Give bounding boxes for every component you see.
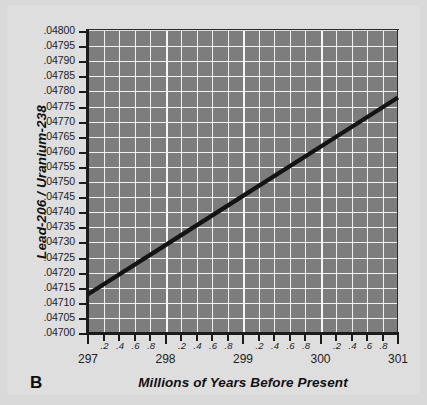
y-tick-mark [79, 167, 86, 169]
x-tick-label-minor: .4 [349, 340, 357, 351]
y-tick-mark [79, 242, 86, 244]
y-tick-mark [79, 91, 86, 93]
x-tick-label-major: 301 [388, 352, 408, 366]
y-tick-mark [79, 227, 86, 229]
x-tick-label-minor: .2 [178, 340, 186, 351]
x-tick-label-major: 300 [310, 352, 330, 366]
y-tick-mark [79, 318, 86, 320]
x-tick-label-minor: .6 [287, 340, 295, 351]
x-tick-label-minor: .4 [271, 340, 279, 351]
series-path [88, 97, 398, 294]
x-tick-mark-major [320, 335, 322, 344]
y-tick-mark [79, 258, 86, 260]
y-tick-mark [79, 273, 86, 275]
x-tick-mark-major [165, 335, 167, 344]
x-tick-mark-major [242, 335, 244, 344]
y-tick-mark [79, 152, 86, 154]
y-tick-mark [79, 137, 86, 139]
x-tick-label-minor: .4 [116, 340, 124, 351]
x-tick-label-major: 297 [78, 352, 98, 366]
x-tick-label-minor: .2 [256, 340, 264, 351]
x-tick-label-minor: .2 [333, 340, 341, 351]
x-tick-mark-major [397, 335, 399, 344]
x-axis-title: Millions of Years Before Present [88, 375, 398, 390]
x-tick-mark-major [87, 335, 89, 344]
x-tick-label-minor: .8 [302, 340, 310, 351]
x-tick-label-minor: .6 [364, 340, 372, 351]
y-tick-mark [79, 46, 86, 48]
y-axis-title: Lead-206 / Uranium-238 [28, 31, 54, 333]
y-tick-mark [79, 76, 86, 78]
y-tick-mark [79, 61, 86, 63]
y-tick-mark [79, 182, 86, 184]
x-tick-label-minor: .6 [132, 340, 140, 351]
x-tick-label-minor: .8 [380, 340, 388, 351]
panel-letter: B [30, 373, 42, 393]
data-series-line [88, 31, 398, 333]
chart-area: .04700.04705.04710.04715.04720.04725.047… [0, 0, 427, 405]
y-tick-mark [79, 31, 86, 33]
x-tick-label-minor: .6 [209, 340, 217, 351]
y-tick-mark [79, 107, 86, 109]
x-tick-label-major: 298 [155, 352, 175, 366]
y-tick-mark [79, 212, 86, 214]
y-tick-mark [79, 288, 86, 290]
x-tick-label-minor: .8 [225, 340, 233, 351]
plot-border-top [86, 29, 399, 30]
x-tick-label-minor: .2 [101, 340, 109, 351]
y-tick-mark [79, 197, 86, 199]
y-tick-mark [79, 333, 86, 335]
x-tick-label-minor: .8 [147, 340, 155, 351]
x-tick-label-major: 299 [233, 352, 253, 366]
y-tick-mark [79, 122, 86, 124]
figure-panel: .04700.04705.04710.04715.04720.04725.047… [0, 0, 427, 405]
y-tick-mark [79, 303, 86, 305]
x-tick-label-minor: .4 [194, 340, 202, 351]
